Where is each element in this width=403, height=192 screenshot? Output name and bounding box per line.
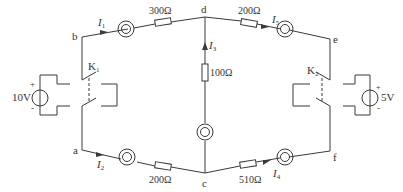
node-label-a: a — [73, 145, 78, 156]
wire-d-e — [205, 17, 330, 68]
voltage-source-10v — [32, 90, 48, 106]
ammeter-socket-i3 — [197, 124, 213, 140]
resistor-200-bottom — [155, 162, 172, 170]
wire-c-f — [205, 128, 330, 173]
node-label-b: b — [72, 31, 78, 42]
resistor-label-200-bottom: 200Ω — [149, 175, 171, 185]
current-label-i1: I1 — [98, 17, 105, 30]
resistor-label-200-top: 200Ω — [238, 6, 260, 16]
arrow-i4 — [263, 160, 271, 165]
resistor-300 — [155, 18, 172, 26]
switch-k1 — [40, 53, 117, 130]
arrow-i3 — [202, 42, 208, 50]
resistor-100 — [202, 64, 208, 81]
source-label-10v: 10V — [12, 92, 31, 103]
ammeter-socket-i2 — [119, 149, 135, 165]
current-label-i4: I4 — [273, 168, 280, 181]
switch-label-k1: K1 — [88, 61, 99, 74]
switch-label-k2: K2 — [307, 65, 318, 78]
node-label-f: f — [333, 152, 337, 163]
current-label-i2: I2 — [97, 159, 104, 172]
resistor-510 — [240, 160, 257, 168]
source-label-5v: 5V — [381, 92, 394, 103]
resistor-label-300: 300Ω — [149, 6, 171, 16]
source-minus-right: - — [377, 104, 380, 113]
voltage-source-5v — [362, 90, 378, 106]
source-minus-left: - — [31, 104, 34, 113]
circuit-diagram — [0, 0, 403, 192]
current-label-i3: I3 — [209, 40, 216, 53]
node-label-e: e — [333, 34, 338, 45]
resistor-label-510: 510Ω — [239, 175, 261, 185]
node-label-c: c — [202, 178, 207, 189]
resistor-200-top — [241, 19, 258, 28]
source-plus-left: + — [30, 80, 35, 89]
resistor-label-100: 100Ω — [210, 68, 232, 78]
node-label-d: d — [201, 4, 207, 15]
switch-k2 — [293, 68, 370, 128]
source-plus-right: + — [376, 84, 381, 92]
current-label-i5: I5 — [272, 14, 279, 27]
